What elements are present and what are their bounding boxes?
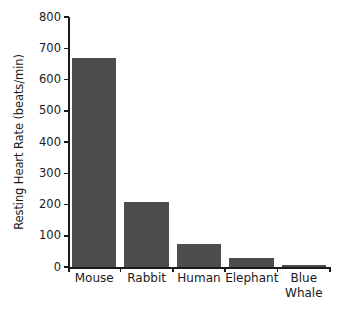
y-tick-label: 100 (39, 228, 61, 242)
bar (229, 258, 273, 267)
x-category-label-line: Mouse (68, 271, 120, 286)
bar (72, 58, 116, 267)
x-category-label: Human (173, 271, 225, 286)
x-category-label: BlueWhale (278, 271, 330, 301)
y-tick-mark (64, 204, 69, 206)
y-tick-mark (64, 173, 69, 175)
x-category-label: Mouse (68, 271, 120, 286)
plot-area: 0100200300400500600700800 (68, 17, 330, 267)
x-category-label-line: Human (173, 271, 225, 286)
y-tick-mark (64, 141, 69, 143)
y-tick-label: 700 (39, 41, 61, 55)
y-tick-mark (64, 16, 69, 18)
bar (124, 202, 168, 267)
y-tick-mark (64, 48, 69, 50)
y-tick-mark (64, 110, 69, 112)
y-tick-label: 300 (39, 166, 61, 180)
y-tick-label: 0 (54, 260, 61, 274)
x-category-label-line: Whale (278, 286, 330, 301)
y-tick-label: 800 (39, 10, 61, 24)
y-tick-mark (64, 235, 69, 237)
y-tick-mark (64, 79, 69, 81)
x-category-label-line: Rabbit (120, 271, 172, 286)
bar (177, 244, 221, 267)
y-tick-label: 500 (39, 103, 61, 117)
y-tick-label: 200 (39, 197, 61, 211)
y-tick-label: 600 (39, 72, 61, 86)
bar-chart-figure: Resting Heart Rate (beats/min) 010020030… (0, 0, 345, 311)
bar (282, 265, 326, 267)
x-category-label: Rabbit (120, 271, 172, 286)
x-axis-line (68, 267, 330, 269)
x-category-label-line: Blue (278, 271, 330, 286)
x-category-label-line: Elephant (225, 271, 277, 286)
y-tick-label: 400 (39, 135, 61, 149)
x-category-label: Elephant (225, 271, 277, 286)
y-axis-title: Resting Heart Rate (beats/min) (8, 17, 30, 267)
